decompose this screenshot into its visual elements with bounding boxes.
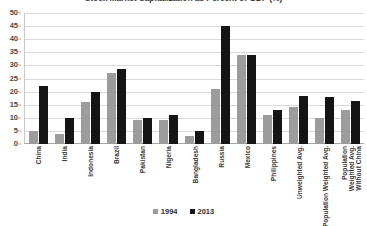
legend-swatch-icon: [153, 209, 158, 214]
x-axis-labels: ChinaIndiaIndonesiaBrazilPakistanNigeria…: [25, 145, 364, 207]
x-axis-label: Russia: [217, 146, 224, 168]
bar-1994[interactable]: [315, 118, 324, 144]
chart-legend: 19942013: [0, 208, 367, 216]
x-axis-label-cell: Brazil: [103, 145, 129, 207]
y-axis: 50454035302520151050: [0, 13, 21, 144]
bar-1994[interactable]: [341, 110, 350, 144]
bar-1994[interactable]: [289, 107, 298, 144]
x-axis-label-cell: Philippines: [260, 145, 286, 207]
bar-group: [208, 13, 234, 144]
x-axis-label: Indonesia: [87, 146, 94, 177]
bar-1994[interactable]: [211, 89, 220, 144]
bar-2013[interactable]: [325, 97, 334, 144]
bar-group: [155, 13, 181, 144]
bar-1994[interactable]: [159, 120, 168, 144]
x-axis-label: Unweighted Avg.: [295, 146, 302, 199]
y-axis-tick-mark: [18, 52, 21, 53]
bar-1994[interactable]: [185, 136, 194, 144]
bar-1994[interactable]: [29, 131, 38, 144]
y-axis-tick-mark: [18, 78, 21, 79]
y-axis-tick-mark: [18, 65, 21, 66]
bar-2013[interactable]: [299, 96, 308, 144]
y-axis-tick-mark: [18, 13, 21, 14]
bar-1994[interactable]: [133, 120, 142, 144]
x-axis-label-cell: Mexico: [234, 145, 260, 207]
y-axis-tick-mark: [18, 26, 21, 27]
bar-1994[interactable]: [237, 55, 246, 144]
bar-1994[interactable]: [107, 73, 116, 144]
x-axis-label-cell: Russia: [208, 145, 234, 207]
bar-chart: Stock Market Capitalization as Percent o…: [0, 0, 367, 226]
x-axis-label: Population Weighted Avg. Without China: [340, 146, 361, 206]
x-axis-label: India: [61, 146, 68, 161]
legend-item[interactable]: 2013: [190, 208, 215, 216]
y-axis-tick-label: 25: [10, 75, 18, 83]
bar-group: [103, 13, 129, 144]
bar-2013[interactable]: [195, 131, 204, 144]
bar-2013[interactable]: [247, 55, 256, 144]
y-axis-tick-mark: [18, 117, 21, 118]
y-axis-tick-label: 35: [10, 49, 18, 57]
bar-group: [286, 13, 312, 144]
bar-group: [312, 13, 338, 144]
x-axis-label: Pakistan: [139, 146, 146, 173]
bar-group: [77, 13, 103, 144]
x-axis-label-cell: India: [51, 145, 77, 207]
x-axis-label-cell: Nigeria: [155, 145, 181, 207]
bar-group: [25, 13, 51, 144]
bar-group: [181, 13, 207, 144]
y-axis-tick-label: 40: [10, 35, 18, 43]
x-axis-label: Philippines: [269, 146, 276, 181]
x-axis-label-cell: Unweighted Avg.: [286, 145, 312, 207]
chart-title: Stock Market Capitalization as Percent o…: [0, 0, 367, 3]
bar-2013[interactable]: [117, 69, 126, 144]
legend-label: 2013: [198, 208, 215, 216]
y-axis-tick-label: 20: [10, 88, 18, 96]
bar-group: [338, 13, 364, 144]
y-axis-tick-label: 10: [10, 114, 18, 122]
x-axis-label: China: [35, 146, 42, 164]
bar-group: [260, 13, 286, 144]
legend-label: 1994: [161, 208, 178, 216]
x-axis-label-cell: Pakistan: [129, 145, 155, 207]
bar-group: [234, 13, 260, 144]
y-axis-tick-label: 30: [10, 62, 18, 70]
bar-2013[interactable]: [351, 101, 360, 144]
x-axis-label: Bangladesh: [191, 146, 198, 183]
y-axis-tick-mark: [18, 130, 21, 131]
x-axis-label-cell: Bangladesh: [181, 145, 207, 207]
y-axis-tick-mark: [18, 91, 21, 92]
y-axis-tick-label: 50: [10, 9, 18, 17]
legend-swatch-icon: [190, 209, 195, 214]
bar-1994[interactable]: [55, 134, 64, 144]
x-axis-label-cell: Population Weighted Avg.: [312, 145, 338, 207]
y-axis-tick-label: 15: [10, 101, 18, 109]
x-axis-label-cell: China: [25, 145, 51, 207]
y-axis-tick-mark: [18, 144, 21, 145]
bar-2013[interactable]: [91, 92, 100, 144]
y-axis-tick-label: 45: [10, 22, 18, 30]
legend-item[interactable]: 1994: [153, 208, 178, 216]
bars-layer: [25, 13, 364, 144]
bar-1994[interactable]: [81, 102, 90, 144]
bar-group: [51, 13, 77, 144]
bar-2013[interactable]: [221, 26, 230, 144]
bar-1994[interactable]: [263, 115, 272, 144]
x-axis-label-cell: Indonesia: [77, 145, 103, 207]
bar-2013[interactable]: [39, 86, 48, 144]
x-axis-label-cell: Population Weighted Avg. Without China: [338, 145, 364, 207]
bar-group: [129, 13, 155, 144]
bar-2013[interactable]: [65, 118, 74, 144]
bar-2013[interactable]: [143, 118, 152, 144]
x-axis-label: Nigeria: [165, 146, 172, 168]
y-axis-tick-mark: [18, 104, 21, 105]
x-axis-label: Brazil: [113, 146, 120, 164]
y-axis-tick-mark: [18, 39, 21, 40]
bar-2013[interactable]: [273, 110, 282, 144]
bar-2013[interactable]: [169, 115, 178, 144]
x-axis-label: Mexico: [243, 146, 250, 168]
